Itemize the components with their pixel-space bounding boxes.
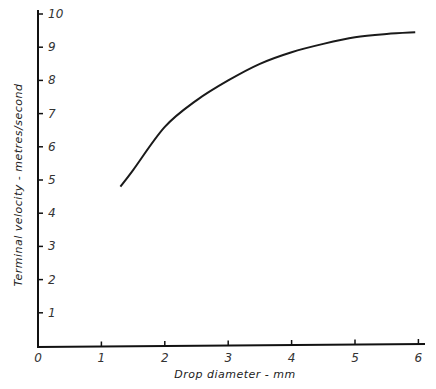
- y-tick-label: 4: [48, 206, 56, 220]
- y-ticks: 12345678910: [38, 7, 64, 320]
- y-tick-label: 9: [48, 40, 56, 54]
- velocity-curve: [120, 32, 415, 186]
- y-tick-label: 7: [48, 107, 56, 121]
- chart: 12345678910 0123456 Drop diameter - mm T…: [0, 0, 436, 389]
- x-tick-label: 1: [98, 351, 106, 365]
- x-axis-title: Drop diameter - mm: [174, 368, 295, 381]
- x-ticks: 0123456: [34, 339, 422, 365]
- x-tick-label: 2: [161, 351, 169, 365]
- y-tick-label: 8: [48, 73, 56, 87]
- y-tick-label: 10: [48, 7, 64, 21]
- axes: [37, 10, 425, 347]
- y-tick-label: 2: [48, 273, 56, 287]
- x-tick-label: 5: [351, 351, 359, 365]
- x-tick-label: 4: [288, 351, 296, 365]
- x-axis: [37, 344, 425, 347]
- y-axis-title: Terminal velocity - metres/second: [12, 83, 25, 286]
- y-tick-label: 5: [48, 173, 56, 187]
- x-tick-label: 3: [224, 351, 232, 365]
- y-tick-label: 6: [48, 140, 56, 154]
- y-tick-label: 3: [48, 239, 56, 253]
- y-tick-label: 1: [48, 306, 56, 320]
- x-tick-label: 0: [34, 351, 42, 365]
- x-tick-label: 6: [415, 351, 423, 365]
